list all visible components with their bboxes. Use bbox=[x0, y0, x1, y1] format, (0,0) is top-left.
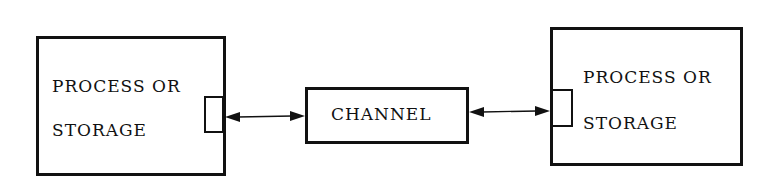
arrowhead-left-icon bbox=[225, 112, 240, 122]
arrowhead-right-icon bbox=[535, 106, 550, 116]
arrowhead-left-icon bbox=[469, 107, 484, 117]
connector-arrows bbox=[0, 0, 779, 190]
channel-right-arrow bbox=[469, 106, 550, 117]
arrowhead-right-icon bbox=[290, 111, 305, 121]
left-channel-arrow bbox=[225, 111, 305, 122]
